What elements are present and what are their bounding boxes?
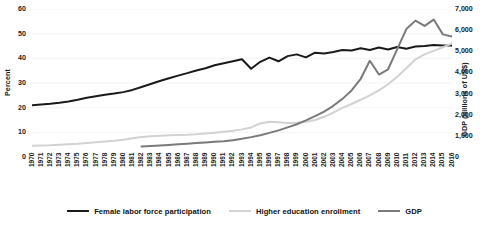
y-tick-right: 3,000 bbox=[455, 90, 487, 98]
y-tick-left: 10 bbox=[2, 128, 26, 136]
legend-label: Female labor force participation bbox=[94, 207, 211, 216]
y-tick-left: 60 bbox=[2, 5, 26, 13]
y-axis-right-title: GDP (billions of US$) bbox=[460, 40, 469, 160]
legend-swatch-icon bbox=[67, 210, 89, 212]
y-tick-left: 30 bbox=[2, 79, 26, 87]
y-tick-right: 1,000 bbox=[455, 132, 487, 140]
y-tick-right: 7,000 bbox=[455, 5, 487, 13]
y-tick-right: 5,000 bbox=[455, 47, 487, 55]
legend-item[interactable]: GDP bbox=[378, 207, 422, 216]
legend-item[interactable]: Female labor force participation bbox=[67, 207, 211, 216]
series-line-0 bbox=[32, 45, 452, 105]
legend-label: GDP bbox=[405, 207, 422, 216]
y-tick-right: 2,000 bbox=[455, 111, 487, 119]
y-tick-left: 40 bbox=[2, 54, 26, 62]
legend-item[interactable]: Higher education enrollment bbox=[229, 207, 360, 216]
y-tick-right: 6,000 bbox=[455, 26, 487, 34]
y-tick-left: 0 bbox=[2, 153, 26, 161]
chart-legend: Female labor force participationHigher e… bbox=[0, 203, 489, 219]
y-tick-left: 50 bbox=[2, 30, 26, 38]
y-tick-left: 20 bbox=[2, 104, 26, 112]
plot-svg bbox=[32, 9, 452, 157]
legend-label: Higher education enrollment bbox=[256, 207, 360, 216]
legend-swatch-icon bbox=[229, 210, 251, 212]
y-tick-right: 0 bbox=[455, 153, 487, 161]
plot-area bbox=[32, 9, 452, 157]
chart-container: Percent GDP (billions of US$) 0102030405… bbox=[0, 0, 489, 225]
legend-swatch-icon bbox=[378, 210, 400, 212]
y-tick-right: 4,000 bbox=[455, 68, 487, 76]
